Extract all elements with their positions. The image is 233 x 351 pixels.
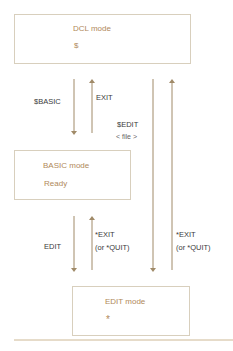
dcl-mode-box: DCL mode $ <box>14 14 191 64</box>
label-edit-to-dcl-1: *EXIT <box>176 230 196 240</box>
edit-mode-box: EDIT mode * <box>72 286 190 336</box>
basic-prompt: Ready <box>44 179 67 188</box>
label-dcl-to-edit-cmd: $EDIT <box>117 120 138 130</box>
label-dcl-to-edit-arg: < file > <box>116 132 137 142</box>
label-basic-to-dcl: EXIT <box>96 93 113 103</box>
basic-mode-label: BASIC mode <box>43 161 89 170</box>
label-edit-to-basic-2: (or *QUIT) <box>95 243 130 253</box>
edit-mode-label: EDIT mode <box>105 297 145 306</box>
label-edit-to-dcl-2: (or *QUIT) <box>176 243 211 253</box>
edit-prompt: * <box>106 314 110 325</box>
label-dcl-to-basic: $BASIC <box>34 97 61 107</box>
label-edit-to-basic-1: *EXIT <box>95 230 115 240</box>
label-basic-to-edit: EDIT <box>44 242 61 252</box>
dcl-mode-label: DCL mode <box>73 24 111 33</box>
basic-mode-box: BASIC mode Ready <box>14 150 131 200</box>
dcl-prompt: $ <box>74 41 78 50</box>
